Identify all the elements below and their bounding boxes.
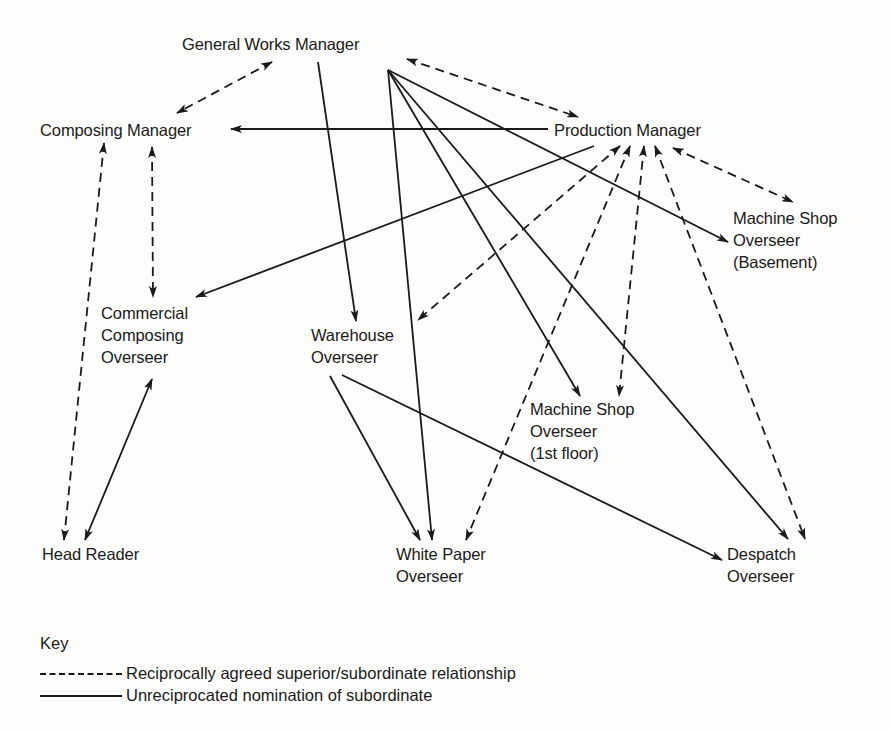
node-cco: CommercialComposingOverseer [101, 302, 188, 368]
node-label-line: Overseer [311, 346, 394, 368]
node-label-line: General Works Manager [182, 33, 359, 55]
node-label-line: Production Manager [554, 119, 701, 141]
node-wo: WarehouseOverseer [311, 324, 394, 368]
node-cm: Composing Manager [40, 119, 191, 141]
node-label-line: Head Reader [42, 543, 139, 565]
node-label-line: Machine Shop [733, 207, 837, 229]
key-label-unreciprocated: Unreciprocated nomination of subordinate [126, 686, 432, 705]
edge-cm-hr-dashed [64, 143, 104, 540]
node-label-line: Overseer [101, 346, 188, 368]
node-label-line: Overseer [396, 565, 486, 587]
edge-gwm-wo-solid [318, 62, 356, 321]
edge-pm-msb-dashed [673, 148, 793, 202]
solid-line-swatch [40, 695, 122, 697]
node-label-line: Despatch [727, 543, 796, 565]
node-hr: Head Reader [42, 543, 139, 565]
node-pm: Production Manager [554, 119, 701, 141]
node-ms1: Machine ShopOverseer(1st floor) [530, 398, 634, 464]
node-label-line: Overseer [727, 565, 796, 587]
node-label-line: Commercial [101, 302, 188, 324]
key-label-reciprocal: Reciprocally agreed superior/subordinate… [126, 664, 516, 683]
node-label-line: Composing Manager [40, 119, 191, 141]
key-item-unreciprocated: Unreciprocated nomination of subordinate [40, 686, 432, 705]
edge-pm-wpo-dashed [466, 146, 630, 540]
node-label-line: Composing [101, 324, 188, 346]
node-msb: Machine ShopOverseer(Basement) [733, 207, 837, 273]
node-label-line: White Paper [396, 543, 486, 565]
node-label-line: Machine Shop [530, 398, 634, 420]
node-label-line: Overseer [733, 229, 837, 251]
key-title: Key [40, 634, 68, 653]
key-item-reciprocal: Reciprocally agreed superior/subordinate… [40, 664, 516, 683]
edge-cm-cco-dashed [152, 147, 153, 297]
edge-hr-cco-solid [85, 379, 152, 540]
node-do: DespatchOverseer [727, 543, 796, 587]
node-label-line: (1st floor) [530, 442, 634, 464]
dashed-line-swatch [40, 673, 122, 675]
node-label-line: Overseer [530, 420, 634, 442]
edge-gwm-wpo-solid [388, 70, 432, 540]
node-label-line: Warehouse [311, 324, 394, 346]
edge-pm-cco-solid [196, 146, 594, 297]
edge-gwm-cm-dashed [177, 62, 272, 113]
node-label-line: (Basement) [733, 251, 837, 273]
node-wpo: White PaperOverseer [396, 543, 486, 587]
edge-pm-ms1-dashed [619, 146, 644, 396]
edge-pm-do-dashed [655, 146, 805, 539]
edge-gwm-pm-dashed [407, 59, 578, 117]
node-gwm: General Works Manager [182, 33, 359, 55]
edge-wo-wpo-solid [330, 376, 420, 540]
